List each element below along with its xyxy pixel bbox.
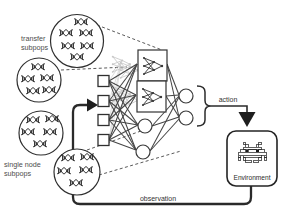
- hidden-node: [138, 119, 152, 133]
- output-bracket: [197, 86, 211, 126]
- output-node: [179, 89, 193, 103]
- input-node: [98, 76, 109, 87]
- transfer-subpop-circle-left: [17, 58, 61, 102]
- observation-label: observation: [140, 195, 176, 202]
- input-node: [98, 135, 109, 146]
- single-node-subpop-circle-bottom: [54, 149, 100, 195]
- transfer-subpop-circle-top: [51, 15, 104, 68]
- svg-text:subpops: subpops: [21, 43, 49, 52]
- svg-text:transfer: transfer: [21, 34, 46, 43]
- input-node: [98, 115, 109, 126]
- single-node-subpop-circle-left: [19, 111, 63, 155]
- transfer-subpops-label: transfer subpops: [21, 34, 49, 52]
- hidden-node: [136, 145, 150, 159]
- input-node: [98, 96, 109, 107]
- hidden-subnetwork-boxes: [137, 50, 167, 112]
- output-node: [179, 111, 193, 125]
- figure-canvas: action transfer subpops: [0, 0, 292, 222]
- action-arrowhead: [239, 112, 256, 127]
- single-node-subpops-label: single node subpops: [4, 160, 41, 178]
- svg-text:subpops: subpops: [4, 169, 32, 178]
- svg-text:single node: single node: [4, 160, 41, 169]
- observation-arrowhead: [87, 99, 98, 112]
- environment-box: Environment: [227, 131, 277, 186]
- diagram-figure: action transfer subpops: [0, 0, 292, 222]
- action-label: action: [219, 96, 238, 103]
- environment-label: Environment: [233, 174, 270, 181]
- input-layer: [98, 76, 109, 146]
- action-arrow: [211, 106, 256, 127]
